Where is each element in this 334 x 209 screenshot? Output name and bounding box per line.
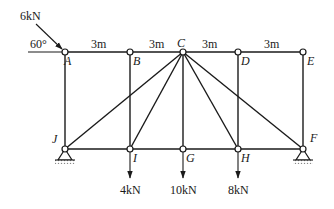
label-A: A	[63, 54, 72, 68]
label-H: H	[240, 151, 251, 165]
load-label-H: 8kN	[228, 183, 249, 197]
label-D: D	[240, 54, 250, 68]
node-E	[300, 49, 306, 55]
span-label-CD: 3m	[202, 37, 218, 51]
member-CJ	[65, 52, 183, 149]
label-B: B	[133, 54, 141, 68]
label-E: E	[306, 54, 315, 68]
span-label-BC: 3m	[149, 37, 165, 51]
load-label-A: 6kN	[20, 9, 41, 23]
label-F: F	[309, 131, 318, 145]
load-label-G: 10kN	[170, 183, 197, 197]
truss-diagram: A B C D E J I G H F 3m 3m 3m 3m 6kN 60° …	[0, 0, 334, 209]
label-J: J	[52, 132, 58, 146]
node-J	[62, 146, 68, 152]
node-F	[300, 146, 306, 152]
label-C: C	[177, 36, 186, 50]
span-label-AB: 3m	[91, 37, 107, 51]
member-CH	[183, 52, 238, 149]
label-G: G	[186, 151, 195, 165]
angle-label-A: 60°	[30, 37, 47, 51]
label-I: I	[132, 151, 138, 165]
span-label-DE: 3m	[264, 37, 280, 51]
load-label-I: 4kN	[120, 183, 141, 197]
